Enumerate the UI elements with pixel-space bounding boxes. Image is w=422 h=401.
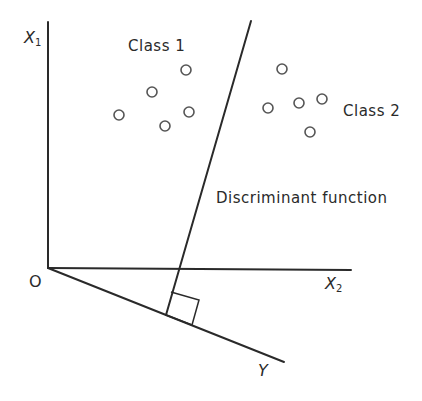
- class1-label: Class 1: [128, 37, 185, 55]
- class2-point: [277, 64, 287, 74]
- class2-point: [294, 98, 304, 108]
- class2-label: Class 2: [343, 102, 400, 120]
- x2-subscript: 2: [336, 283, 342, 294]
- class2-point: [305, 127, 315, 137]
- origin-label: O: [29, 272, 42, 291]
- class1-point: [184, 107, 194, 117]
- discriminant-function-label: Discriminant function: [216, 189, 388, 207]
- x1-axis-label: X1: [24, 28, 41, 48]
- discriminant-line: [166, 21, 251, 315]
- class1-points: [114, 65, 194, 131]
- class1-point: [181, 65, 191, 75]
- class2-points: [263, 64, 327, 137]
- class1-point: [147, 87, 157, 97]
- x1-subscript: 1: [35, 37, 41, 48]
- class2-point: [263, 103, 273, 113]
- x2-axis-label: X2: [325, 274, 342, 294]
- x1-var: X: [24, 28, 35, 47]
- x2-axis: [48, 268, 351, 270]
- y-axis-label: Y: [258, 361, 268, 380]
- x2-var: X: [325, 274, 336, 293]
- class1-point: [160, 121, 170, 131]
- class1-point: [114, 110, 124, 120]
- class2-point: [317, 94, 327, 104]
